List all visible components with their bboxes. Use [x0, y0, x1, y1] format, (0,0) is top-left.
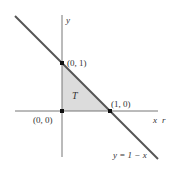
point-0-1-label: (0, 1) — [67, 58, 87, 68]
y-axis-label: y — [65, 15, 70, 25]
coordinate-plot: y x r (0, 1) (1, 0) (0, 0) T y = 1 − x — [0, 0, 173, 175]
x-axis-label: x — [152, 115, 157, 125]
diagram-canvas: y x r (0, 1) (1, 0) (0, 0) T y = 1 − x — [0, 0, 173, 175]
point-origin — [60, 109, 64, 113]
point-0-1 — [60, 61, 64, 65]
point-1-0 — [108, 109, 112, 113]
x-axis-label-secondary: r — [162, 115, 166, 125]
line-y-equals-1-minus-x — [15, 16, 158, 159]
line-equation-label: y = 1 − x — [112, 150, 147, 160]
point-origin-label: (0, 0) — [33, 115, 53, 125]
point-1-0-label: (1, 0) — [111, 99, 131, 109]
